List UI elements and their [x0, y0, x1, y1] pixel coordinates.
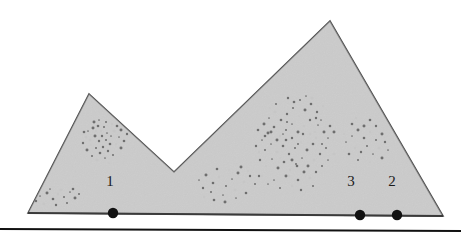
speckle-dot [321, 143, 323, 145]
speckle-dot [235, 197, 237, 199]
speckle-dot [101, 135, 103, 137]
speckle-dot [283, 161, 286, 164]
speckle-dot [292, 107, 294, 109]
speckle-dot [285, 175, 288, 178]
speckle-dot [369, 131, 371, 133]
speckle-dot [309, 119, 311, 121]
speckle-dot [52, 198, 55, 201]
speckle-dot [231, 178, 233, 180]
speckle-dot [63, 196, 65, 198]
speckle-dot [312, 185, 314, 187]
speckle-dot [267, 132, 270, 135]
speckle-dot [291, 123, 293, 125]
speckle-dot [298, 115, 300, 117]
speckle-dot [203, 196, 205, 198]
speckle-dot [92, 127, 95, 130]
speckle-dot [109, 143, 112, 146]
speckle-dot [279, 157, 281, 159]
speckle-dot [321, 165, 323, 167]
speckle-dot [279, 187, 281, 189]
scanned-figure-container: 132 [0, 0, 461, 236]
speckle-dot [291, 137, 293, 139]
speckle-dot [264, 135, 267, 138]
speckle-dot [387, 149, 389, 151]
speckle-dot [113, 130, 116, 133]
speckle-dot [285, 129, 287, 131]
speckle-dot [357, 129, 360, 132]
speckle-dot [384, 141, 386, 143]
speckle-dot [66, 202, 68, 204]
speckle-dot [103, 126, 105, 128]
speckle-dot [317, 124, 319, 126]
speckle-dot [369, 161, 371, 163]
speckle-dot [120, 129, 123, 132]
speckle-dot [375, 125, 377, 127]
point-label-2: 2 [388, 173, 396, 189]
speckle-dot [279, 135, 281, 137]
speckle-dot [95, 147, 97, 149]
speckle-dot [381, 133, 384, 136]
point-dot-1[interactable] [108, 208, 118, 218]
speckle-dot [46, 192, 49, 195]
speckle-dot [91, 155, 93, 157]
speckle-dot [94, 135, 97, 138]
speckle-dot [55, 204, 57, 206]
speckle-dot [301, 157, 303, 159]
speckle-dot [381, 157, 384, 160]
speckle-dot [126, 133, 128, 135]
speckle-dot [100, 130, 102, 132]
speckle-dot [310, 103, 313, 106]
speckle-dot [97, 125, 100, 128]
speckle-dot [271, 158, 273, 160]
speckle-dot [78, 193, 80, 195]
speckle-dot [234, 189, 237, 192]
speckle-dot [95, 130, 97, 132]
speckle-dot [303, 125, 306, 128]
speckle-dot [86, 149, 89, 152]
speckle-dot [274, 111, 277, 114]
speckle-dot [312, 143, 315, 146]
speckle-dot [265, 165, 267, 167]
speckle-dot [282, 133, 284, 135]
speckle-dot [49, 188, 51, 190]
speckle-dot [355, 117, 357, 119]
speckle-dot [313, 159, 316, 162]
point-dot-2[interactable] [392, 210, 402, 220]
speckle-dot [345, 141, 347, 143]
speckle-dot [329, 125, 332, 128]
point-dot-3[interactable] [355, 210, 365, 220]
speckle-dot [263, 123, 266, 126]
speckle-dot [259, 159, 261, 161]
speckle-dot [111, 123, 113, 125]
speckle-dot [375, 139, 377, 141]
speckle-dot [57, 193, 59, 195]
speckle-dot [320, 119, 322, 121]
speckle-dot [218, 176, 220, 178]
speckle-dot [286, 121, 288, 123]
speckle-dot [105, 121, 107, 123]
figure-canvas: 132 [0, 0, 461, 236]
speckle-dot [258, 175, 260, 177]
speckle-dot [363, 125, 366, 128]
speckle-dot [314, 131, 316, 133]
speckle-dot [60, 189, 63, 192]
speckle-dot [123, 140, 126, 143]
speckle-dot [309, 177, 312, 180]
speckle-dot [247, 170, 249, 172]
speckle-dot [327, 159, 329, 161]
speckle-dot [291, 159, 294, 162]
speckle-dot [110, 135, 112, 137]
speckle-dot [288, 153, 290, 155]
speckle-dot [286, 113, 288, 115]
speckle-dot [202, 187, 204, 189]
speckle-dot [90, 144, 92, 146]
speckle-dot [222, 194, 224, 196]
speckle-dot [93, 121, 96, 124]
speckle-dot [98, 119, 100, 121]
speckle-dot [107, 150, 109, 152]
speckle-dot [275, 103, 277, 105]
speckle-dot [300, 141, 302, 143]
speckle-dot [319, 153, 321, 155]
speckle-dot [360, 151, 362, 153]
speckle-dot [276, 151, 279, 154]
